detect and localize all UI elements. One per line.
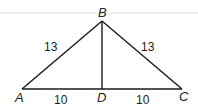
vertex-label-c: C — [179, 89, 189, 104]
length-label-ab: 13 — [44, 40, 58, 54]
vertex-label-d: D — [97, 90, 106, 105]
vertex-label-a: A — [14, 90, 24, 105]
length-label-ad: 10 — [54, 93, 68, 107]
vertex-label-b: B — [98, 5, 107, 20]
triangle-diagram: B A D C 13 13 10 10 — [0, 0, 198, 109]
length-label-bc: 13 — [141, 40, 155, 54]
segment-ab — [22, 21, 102, 89]
segment-bc — [102, 21, 182, 89]
length-label-dc: 10 — [136, 93, 150, 107]
